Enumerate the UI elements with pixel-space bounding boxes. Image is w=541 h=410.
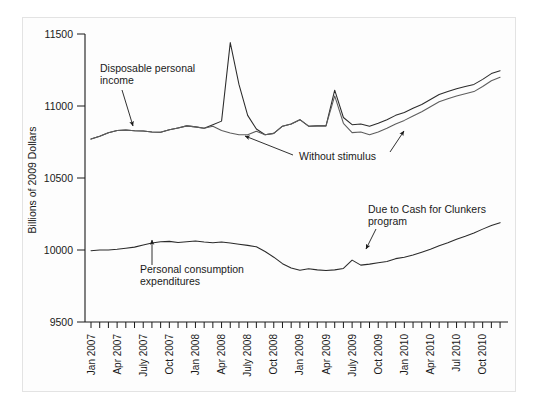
chart-figure: Billions of 2009 Dollars 950010000105001… [0, 0, 541, 410]
x-tick-label: Apr 2010 [425, 334, 436, 375]
annotation-arrow [245, 136, 293, 155]
y-tick-label: 10000 [44, 244, 73, 256]
annotation-arrow [366, 229, 376, 249]
y-axis-ticks: 950010000105001100011500 [44, 28, 85, 328]
annotation-label: income [100, 74, 134, 86]
annotation-label: Due to Cash for Clunkers [368, 203, 486, 215]
annotation-disposable-personal-income: Disposable personalincome [100, 62, 195, 126]
x-tick-label: July 2008 [242, 334, 253, 377]
x-tick-label: July 2009 [347, 334, 358, 377]
x-axis-ticks [91, 322, 500, 328]
y-tick-label: 11500 [45, 28, 74, 40]
x-tick-label: Oct 2008 [268, 334, 279, 375]
x-tick-label: Apr 2008 [216, 334, 227, 375]
x-tick-label: Jan 2010 [399, 334, 410, 376]
annotations-group: Disposable personalincomeWithout stimulu… [100, 62, 486, 287]
y-tick-label: 11000 [45, 100, 74, 112]
annotation-label: Without stimulus [299, 150, 376, 162]
annotation-without-stimulus: Without stimulus [245, 131, 404, 162]
x-tick-label: Jan 2007 [86, 334, 97, 376]
x-tick-label: Apr 2009 [321, 334, 332, 375]
line-chart: Billions of 2009 Dollars 950010000105001… [0, 0, 541, 410]
annotation-arrow-secondary [390, 131, 404, 152]
annotation-label: expenditures [140, 275, 200, 287]
x-tick-label: Jan 2008 [190, 334, 201, 376]
annotation-cash-for-clunkers: Due to Cash for Clunkersprogram [366, 203, 486, 249]
y-tick-label: 9500 [50, 316, 74, 328]
x-tick-label: Apr 2007 [112, 334, 123, 375]
series-path-disposable-personal-income [91, 43, 500, 139]
annotation-personal-consumption-expenditures: Personal consumptionexpenditures [140, 240, 244, 287]
x-tick-label: Oct 2007 [164, 334, 175, 375]
annotation-label: program [368, 215, 407, 227]
annotation-label: Personal consumption [140, 263, 244, 275]
x-tick-label: Oct 2009 [373, 334, 384, 375]
annotation-label: Disposable personal [100, 62, 195, 74]
data-series-group [91, 43, 500, 271]
x-tick-label: Jan 2009 [294, 334, 305, 376]
y-tick-label: 10500 [44, 172, 73, 184]
x-axis-tick-labels: Jan 2007Apr 2007July 2007Oct 2007Jan 200… [86, 334, 489, 377]
x-tick-label: Jul 2010 [451, 334, 462, 372]
series-path-without-stimulus [91, 77, 500, 139]
x-tick-label: Oct 2010 [477, 334, 488, 375]
x-tick-label: July 2007 [138, 334, 149, 377]
y-axis-title: Billions of 2009 Dollars [26, 127, 38, 234]
annotation-arrow [122, 90, 133, 126]
